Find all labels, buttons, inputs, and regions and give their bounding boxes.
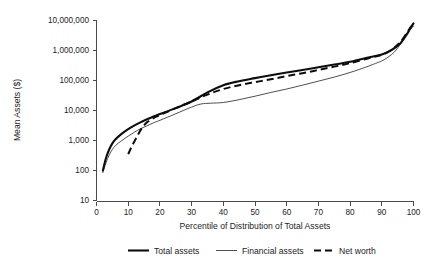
chart-svg: 10,000,000 1,000,000 100,000 10,000 1,00… <box>0 0 445 268</box>
x-tick-label-60: 60 <box>282 208 292 217</box>
series-line-total-assets <box>103 23 414 170</box>
x-tick-label-30: 30 <box>187 208 197 217</box>
series-line-net-worth <box>128 24 413 154</box>
y-axis-ticks <box>93 21 97 201</box>
y-tick-label-100000: 100,000 <box>59 76 89 85</box>
chart-figure: 10,000,000 1,000,000 100,000 10,000 1,00… <box>0 0 445 268</box>
x-tick-label-40: 40 <box>219 208 229 217</box>
x-tick-label-100: 100 <box>407 208 421 217</box>
x-axis-ticks <box>97 202 414 206</box>
legend-label-total-assets: Total assets <box>154 246 199 256</box>
x-tick-label-50: 50 <box>250 208 260 217</box>
x-tick-label-20: 20 <box>155 208 165 217</box>
y-tick-label-1000: 1,000 <box>69 136 90 145</box>
x-tick-label-90: 90 <box>377 208 387 217</box>
x-tick-label-80: 80 <box>346 208 356 217</box>
legend-label-financial-assets: Financial assets <box>242 246 304 256</box>
y-axis-title: Mean Assets ($) <box>12 79 22 141</box>
x-tick-label-10: 10 <box>124 208 134 217</box>
x-axis-title: Percentile of Distribution of Total Asse… <box>180 221 331 231</box>
y-tick-label-100: 100 <box>75 166 89 175</box>
y-tick-label-10000000: 10,000,000 <box>48 16 89 25</box>
chart-legend: Total assets Financial assets Net worth <box>128 246 376 256</box>
series-line-financial-assets <box>103 26 414 173</box>
y-tick-label-10000: 10,000 <box>64 106 89 115</box>
x-tick-label-70: 70 <box>314 208 324 217</box>
y-tick-label-1000000: 1,000,000 <box>53 46 90 55</box>
legend-label-net-worth: Net worth <box>339 246 376 256</box>
x-tick-label-0: 0 <box>94 208 99 217</box>
y-tick-label-10: 10 <box>80 196 90 205</box>
